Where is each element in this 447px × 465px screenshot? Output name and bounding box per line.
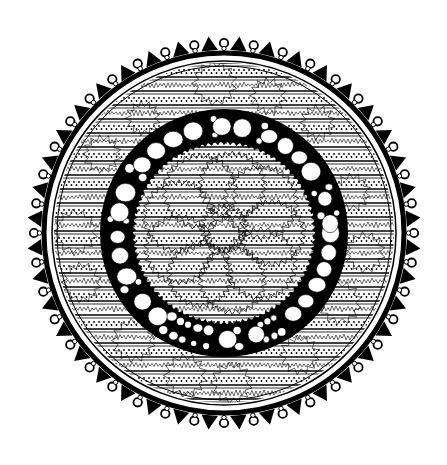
mandala-drawing (0, 0, 447, 465)
concentric-rings (44, 53, 404, 413)
